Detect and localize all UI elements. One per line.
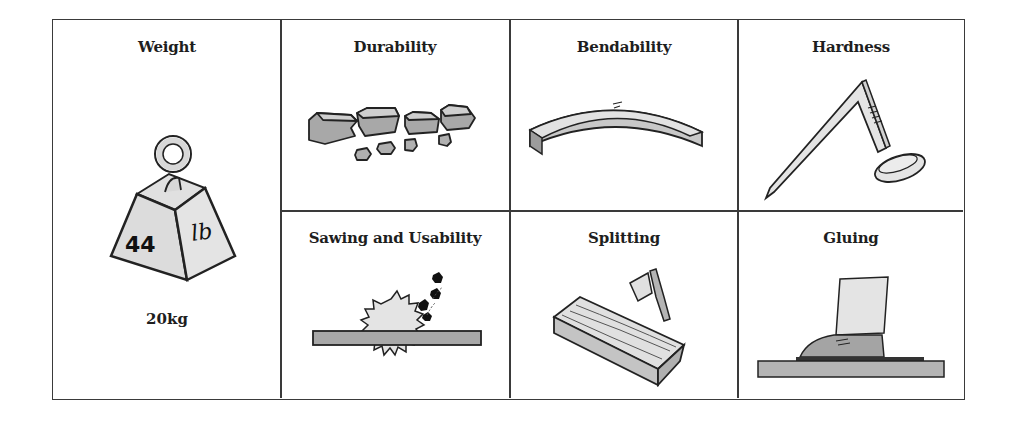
weight-icon: 44 lb (53, 20, 281, 398)
cell-splitting: Splitting (510, 211, 738, 398)
cell-gluing: Gluing (738, 211, 964, 398)
svg-text:44: 44 (125, 232, 156, 257)
cell-weight: Weight 44 lb 20kg (53, 20, 281, 398)
axe-and-log-icon (510, 211, 738, 398)
bent-nail-icon (738, 20, 964, 210)
cell-sawing: Sawing and Usability (281, 211, 509, 398)
weight-caption: 20kg (53, 310, 281, 328)
foot-pressing-board-icon (738, 211, 964, 398)
cell-durability: Durability (281, 20, 509, 210)
wood-properties-grid: Weight 44 lb 20kg Durability (52, 19, 965, 400)
circular-saw-icon (281, 211, 509, 398)
cell-hardness: Hardness (738, 20, 964, 210)
cell-bendability: Bendability (510, 20, 738, 210)
bent-beam-icon (510, 20, 738, 210)
broken-wood-pieces-icon (281, 20, 509, 210)
svg-text:lb: lb (189, 218, 213, 246)
